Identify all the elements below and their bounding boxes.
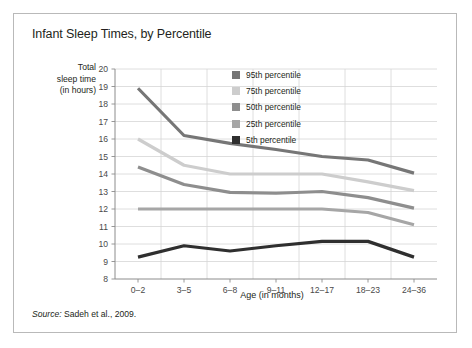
legend-item[interactable]: 50th percentile [232,102,301,112]
y-tick-label: 11 [99,222,108,232]
y-tick-label: 17 [98,117,108,127]
y-tick-label: 16 [98,134,108,144]
series-line [138,88,414,173]
source-note: Source: Sadeh et al., 2009. [32,309,136,319]
y-tick-label: 14 [98,169,108,179]
legend-label: 75th percentile [246,86,301,96]
legend-swatch-icon [232,136,240,144]
legend-swatch-icon [232,71,240,79]
y-tick-label: 18 [98,99,108,109]
series-line [138,209,414,225]
legend-item[interactable]: 25th percentile [232,119,301,129]
plot-area: 8910111213141516171819200–23–56–89–1112–… [14,14,458,334]
legend-label: 5th percentile [246,135,296,145]
source-text: Sadeh et al., 2009. [62,309,137,319]
legend-label: 95th percentile [246,70,301,80]
y-tick-label: 20 [98,64,108,74]
y-tick-label: 8 [103,274,108,284]
y-tick-label: 15 [98,152,108,162]
y-tick-label: 9 [103,257,108,267]
figure-frame: Infant Sleep Times, by Percentile Total … [13,13,457,333]
legend-item[interactable]: 75th percentile [232,86,301,96]
x-axis-title-text: Age (in months) [168,290,304,300]
y-tick-label: 12 [98,204,108,214]
legend-swatch-icon [232,103,240,111]
y-tick-label: 19 [98,82,108,92]
line-chart-svg: 8910111213141516171819200–23–56–89–1112–… [14,14,458,334]
legend-item[interactable]: 5th percentile [232,135,296,145]
y-tick-label: 13 [98,187,108,197]
y-tick-label: 10 [98,239,108,249]
legend-label: 25th percentile [246,119,301,129]
legend-item[interactable]: 95th percentile [232,70,301,80]
legend-swatch-icon [232,120,240,128]
source-label: Source: [32,309,62,319]
x-axis-title: Age (in months) [14,290,458,300]
legend-swatch-icon [232,87,240,95]
legend-label: 50th percentile [246,102,301,112]
